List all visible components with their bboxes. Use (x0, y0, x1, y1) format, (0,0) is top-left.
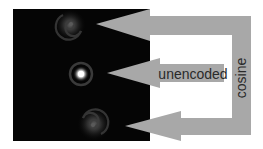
diagram: unencoded cosine (0, 0, 263, 149)
unencoded-label: unencoded (158, 66, 227, 82)
bottom-arrow-bar (180, 118, 251, 135)
top-psf-spot (54, 9, 86, 41)
center-psf-spot (70, 63, 92, 85)
bottom-psf-spot (77, 107, 111, 141)
cosine-label: cosine (233, 58, 249, 99)
